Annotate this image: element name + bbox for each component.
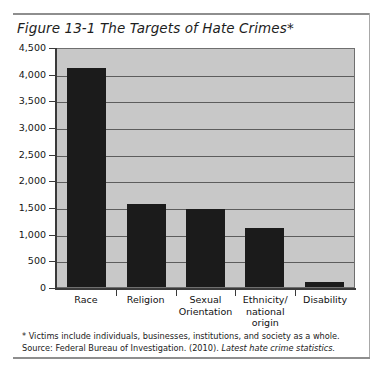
x-axis-label: SexualOrientation [176,294,234,317]
y-tick-mark [49,235,56,236]
y-tick-label: 4,000 [2,70,46,80]
bar [305,282,344,287]
y-tick-label: 3,000 [2,123,46,133]
x-axis-label-line: Orientation [176,306,234,318]
y-tick-mark [49,75,56,76]
x-axis-label-line: Religion [117,294,175,306]
bar [67,68,106,287]
y-tick-label: 1,000 [2,230,46,240]
y-tick-mark [49,155,56,156]
x-axis-line [55,288,356,290]
y-tick-mark [49,101,56,102]
plot-area [56,48,355,288]
bar [186,209,225,287]
x-axis-label-line: Ethnicity/ [236,294,294,306]
y-tick-label: 4,500 [2,43,46,53]
chart-plot-wrapper: 4,5004,0003,5003,0002,5002,0001,5001,000… [0,0,383,375]
x-axis-label-line: national [236,306,294,318]
source-title-text: Latest hate crime statistics. [221,343,335,353]
x-axis-label-line: Disability [296,294,354,306]
y-tick-mark [49,48,56,49]
y-tick-label: 2,500 [2,150,46,160]
y-tick-label: 0 [2,283,46,293]
y-tick-mark [49,128,56,129]
x-axis-label: Disability [296,294,354,306]
figure-card: Figure 13-1 The Targets of Hate Crimes* … [0,0,383,375]
x-axis-label: Religion [117,294,175,306]
x-axis-label-line: Sexual [176,294,234,306]
y-tick-mark [49,208,56,209]
x-axis-label: Race [57,294,115,306]
bar [245,228,284,287]
y-axis-line [55,48,57,289]
y-tick-label: 1,500 [2,203,46,213]
y-tick-mark [49,261,56,262]
footnote-source: Source: Federal Bureau of Investigation.… [22,343,362,355]
y-tick-label: 500 [2,256,46,266]
x-axis-labels-group: RaceReligionSexualOrientationEthnicity/n… [56,294,355,329]
x-axis-label-line: Race [57,294,115,306]
footnotes-block: * Victims include individuals, businesse… [22,331,362,354]
y-tick-label: 2,000 [2,176,46,186]
source-prefix-text: Source: Federal Bureau of Investigation.… [22,343,221,353]
x-axis-label-line: origin [236,317,294,329]
y-tick-mark [49,181,56,182]
x-axis-label: Ethnicity/nationalorigin [236,294,294,329]
y-tick-label: 3,500 [2,96,46,106]
bars-group [57,49,354,287]
footnote-victims: * Victims include individuals, businesse… [22,331,362,343]
bar [127,204,166,287]
